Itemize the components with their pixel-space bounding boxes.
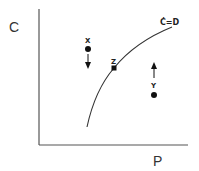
arrow-down-icon bbox=[85, 54, 91, 69]
phase-diagram: C P Ċ=D X Z Y bbox=[0, 0, 199, 171]
arrow-up-icon bbox=[151, 62, 157, 78]
x-axis-label: P bbox=[153, 153, 162, 169]
curve-label: Ċ=D bbox=[160, 17, 180, 27]
point-z-label: Z bbox=[111, 58, 116, 66]
equilibrium-curve bbox=[87, 27, 172, 127]
point-y-label: Y bbox=[150, 82, 157, 90]
point-z bbox=[112, 66, 117, 71]
y-axis-label: C bbox=[9, 19, 19, 35]
point-x bbox=[85, 46, 91, 52]
point-y bbox=[151, 92, 157, 98]
point-x-label: X bbox=[85, 37, 91, 45]
